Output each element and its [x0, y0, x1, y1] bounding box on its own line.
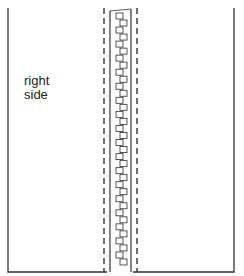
zipper-tooth — [120, 76, 127, 82]
zipper-tooth — [120, 161, 127, 167]
zipper-tape-top — [110, 9, 131, 11]
zipper-tooth — [116, 13, 123, 19]
zipper-tooth — [116, 69, 123, 75]
zipper-tooth — [120, 34, 127, 40]
zipper-tooth — [120, 231, 127, 237]
left-fabric-panel — [8, 8, 107, 272]
zipper-tooth — [116, 83, 123, 89]
zipper-tooth — [116, 97, 123, 103]
zipper-tooth — [120, 132, 127, 138]
zipper-tooth — [116, 140, 123, 146]
zipper-tooth — [116, 224, 123, 230]
zipper-tooth — [120, 217, 127, 223]
zipper-tooth — [120, 259, 127, 265]
zipper-tooth — [116, 111, 123, 117]
zipper-tooth — [120, 20, 127, 26]
zipper-tooth — [116, 41, 123, 47]
zipper-tooth — [120, 245, 127, 251]
zipper-tooth — [116, 154, 123, 160]
right-side-label: right side — [24, 74, 49, 102]
zipper-diagram — [0, 0, 244, 276]
zipper-tooth — [116, 168, 123, 174]
zipper-tooth — [116, 252, 123, 258]
zipper-tooth — [116, 210, 123, 216]
zipper-tooth — [116, 125, 123, 131]
zipper-tooth — [120, 147, 127, 153]
zipper-tooth — [120, 203, 127, 209]
zipper-tooth — [120, 48, 127, 54]
zipper-tooth — [116, 196, 123, 202]
zipper-tooth — [116, 55, 123, 61]
zipper-tooth — [120, 118, 127, 124]
zipper-tooth — [116, 182, 123, 188]
zipper-tooth — [120, 189, 127, 195]
zipper-tooth — [116, 238, 123, 244]
zipper-teeth — [116, 13, 127, 265]
zipper-tooth — [120, 104, 127, 110]
zipper-tooth — [120, 62, 127, 68]
zipper-tooth — [120, 90, 127, 96]
zipper-tooth — [120, 175, 127, 181]
right-fabric-panel — [133, 8, 234, 272]
zipper-tooth — [116, 27, 123, 33]
